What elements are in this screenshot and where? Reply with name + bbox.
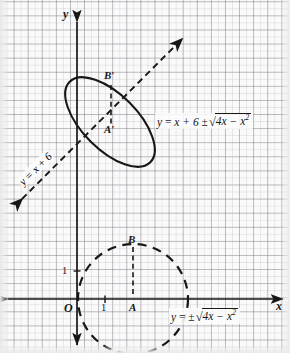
eq-equals: = xyxy=(165,116,172,128)
eq-term: x + 6 xyxy=(174,116,198,128)
origin-label: O xyxy=(64,302,73,314)
radicand-2: 4x − x2 xyxy=(202,308,238,322)
eq2-equals: = xyxy=(179,311,186,323)
equation-label-circle: y = ±√4x − x2 xyxy=(169,308,240,324)
figure-canvas: y x O 1 1 A B A′ B′ y = x + 6 y = x + 6 … xyxy=(0,0,290,353)
point-label-a-prime: A′ xyxy=(104,124,114,135)
radicand: 4x − x2 xyxy=(215,113,251,127)
radicand-exponent-2: 2 xyxy=(232,308,236,317)
radicand-text-2: 4x − x xyxy=(203,310,232,322)
equation-label-ellipse: y = x + 6 ±√4x − x2 xyxy=(155,113,253,129)
axis-lines xyxy=(8,22,283,345)
x-axis-label: x xyxy=(276,300,282,312)
y-axis-label: y xyxy=(63,8,68,20)
radical-group-2: √4x − x2 xyxy=(195,309,238,323)
radical-group: √4x − x2 xyxy=(208,114,251,128)
y-tick-label-1: 1 xyxy=(62,266,67,277)
point-label-b-prime: B′ xyxy=(104,70,114,81)
figure-drawing-layer xyxy=(0,0,290,353)
point-label-a: A xyxy=(129,302,136,313)
radicand-text: 4x − x xyxy=(216,115,245,127)
radicand-exponent: 2 xyxy=(245,113,249,122)
point-label-b: B xyxy=(128,234,135,245)
x-tick-label-1: 1 xyxy=(101,303,106,314)
eq2-lhs: y xyxy=(171,311,176,323)
eq-lhs: y xyxy=(157,116,162,128)
